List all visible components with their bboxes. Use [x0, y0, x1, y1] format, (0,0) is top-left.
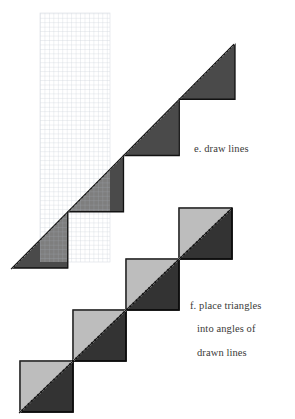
graph-paper-grid: [40, 13, 110, 262]
caption-place-triangles-line-3: drawn lines: [190, 347, 261, 359]
caption-draw-lines: e. draw lines: [194, 143, 249, 155]
caption-place-triangles: f. place triangles into angles of drawn …: [190, 288, 261, 370]
diagram-page: e. draw lines f. place triangles into an…: [0, 0, 295, 419]
caption-place-triangles-line-1: f. place triangles: [190, 300, 261, 312]
caption-place-triangles-line-2: into angles of: [190, 323, 261, 335]
